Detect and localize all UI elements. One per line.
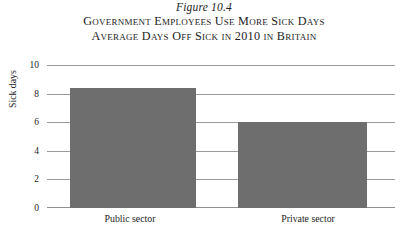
- y-tick-label-0: 0: [0, 203, 39, 213]
- x-axis-label-public-sector: Public sector: [40, 213, 220, 225]
- bar-public-sector: [70, 88, 196, 208]
- y-tick-label-10: 10: [0, 60, 39, 70]
- y-tick-label-2: 2: [0, 174, 39, 184]
- bar-private-sector: [238, 122, 367, 208]
- y-tick-label-4: 4: [0, 146, 39, 156]
- y-tick-label-6: 6: [0, 117, 39, 127]
- gridline-10: [47, 65, 395, 66]
- y-tick-label-8: 8: [0, 89, 39, 99]
- plot-area: [47, 65, 395, 208]
- x-axis-label-private-sector: Private sector: [213, 213, 403, 225]
- y-axis-tick-labels: 10 8 6 4 2 0: [0, 0, 43, 238]
- bar-chart: Sick days 10 8 6 4 2 0 Public sector Pri…: [0, 0, 408, 238]
